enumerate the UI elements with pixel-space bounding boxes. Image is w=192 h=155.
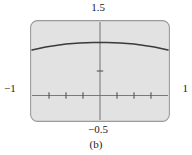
y-axis-min-label: −0.5 xyxy=(2,124,192,135)
x-axis-min-label: −1 xyxy=(4,83,16,94)
figure-caption: (b) xyxy=(0,139,192,150)
figure-panel-b: 1.5 −1 1 −0.5 (b) xyxy=(0,0,192,155)
plot-area xyxy=(30,20,170,122)
y-axis-max-label: 1.5 xyxy=(2,2,192,13)
x-axis-max-label: 1 xyxy=(183,83,189,94)
plot-svg xyxy=(30,20,170,122)
